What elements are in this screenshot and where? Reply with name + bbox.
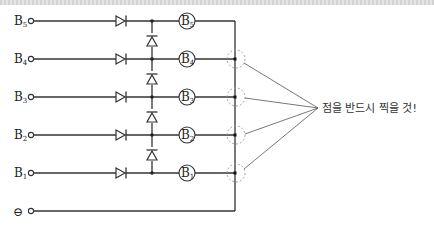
junction-dot-icon [234, 58, 237, 61]
diode-icon [116, 16, 126, 27]
diode-icon [116, 130, 126, 141]
minus-circle-icon: ⊖ [13, 205, 23, 219]
ground-terminal: ⊖ [13, 205, 34, 219]
svg-text:B5: B5 [14, 14, 27, 29]
terminal-circle-icon [28, 132, 33, 137]
diode-icon [116, 168, 126, 179]
return-wires [195, 21, 235, 211]
series-diodes [116, 16, 126, 179]
junction-dot-icon [234, 134, 237, 137]
diode-up-icon [146, 71, 158, 85]
input-terminal-b3: B3 [14, 90, 34, 105]
diode-matrix-circuit: B5 B4 B3 B2 B1 ⊖ [0, 0, 434, 230]
diode-up-icon [146, 147, 158, 161]
annotation-text: 점을 반드시 찍을 것! [322, 102, 417, 115]
input-terminal-b2: B2 [14, 128, 34, 143]
junction-highlights [227, 50, 245, 182]
terminal-circle-icon [28, 94, 33, 99]
lamp-b5: B5 [179, 13, 195, 29]
input-terminal-b1: B1 [14, 166, 34, 181]
diode-up-icon [146, 33, 158, 47]
diode-up-icon [146, 109, 158, 123]
terminal-circle-icon [28, 208, 33, 213]
svg-text:B4: B4 [14, 52, 28, 67]
lamp-b4: B4 [179, 51, 195, 67]
svg-text:B3: B3 [14, 90, 27, 105]
terminal-circle-icon [28, 18, 33, 23]
svg-text:B2: B2 [14, 128, 27, 143]
svg-text:B1: B1 [14, 166, 27, 181]
junction-dot-icon [234, 96, 237, 99]
diode-icon [116, 54, 126, 65]
diode-icon [116, 92, 126, 103]
lamp-b3: B3 [179, 89, 195, 105]
input-terminal-b4: B4 [14, 52, 34, 67]
terminal-circle-icon [28, 56, 33, 61]
junction-dot-icon [234, 172, 237, 175]
lamp-b1: B1 [179, 165, 195, 181]
annotation-leaders [244, 63, 318, 169]
input-terminal-b5: B5 [14, 14, 34, 29]
lamp-b2: B2 [179, 127, 195, 143]
terminal-circle-icon [28, 170, 33, 175]
input-wires [34, 21, 235, 211]
